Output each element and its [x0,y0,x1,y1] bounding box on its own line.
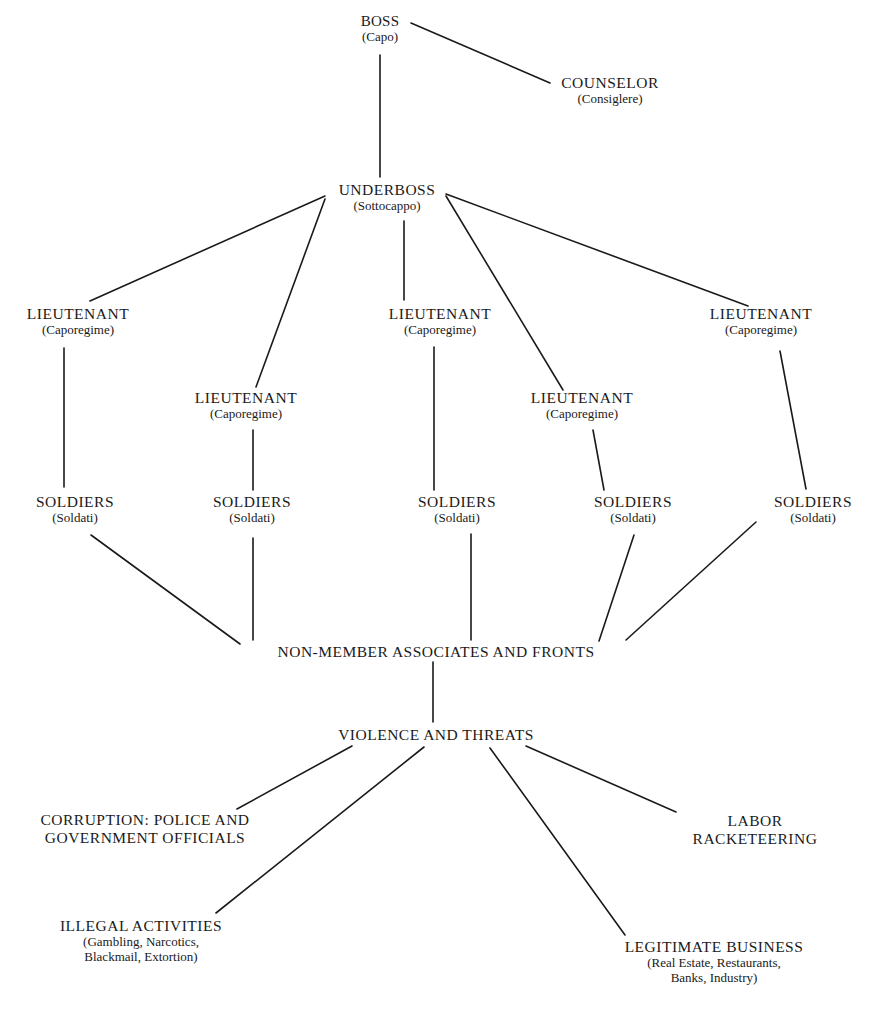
lieutenant-title: LIEUTENANT [710,305,812,323]
edge-violence-corruption [237,746,352,809]
underboss-title: UNDERBOSS [339,181,436,199]
soldiers-title: SOLDIERS [418,493,496,511]
node-violence-and-threats: VIOLENCE AND THREATS [338,726,534,744]
edge-violence-labor [526,746,676,812]
lieutenant-subtitle: (Caporegime) [27,323,129,338]
edge-underboss-lieutenant-2 [256,199,325,387]
node-legitimate-business: LEGITIMATE BUSINESS (Real Estate, Restau… [625,938,804,986]
corruption-line-1: CORRUPTION: POLICE AND [40,811,249,829]
edge-underboss-lieutenant-1 [90,196,325,301]
edge-underboss-lieutenant-4 [446,196,563,390]
node-underboss: UNDERBOSS (Sottocappo) [339,181,436,214]
node-lieutenant-2: LIEUTENANT (Caporegime) [195,389,297,422]
node-counselor: COUNSELOR (Consiglere) [561,74,659,107]
edge-soldiers-4-associates [599,535,634,641]
lieutenant-title: LIEUTENANT [531,389,633,407]
soldiers-title: SOLDIERS [594,493,672,511]
node-illegal-activities: ILLEGAL ACTIVITIES (Gambling, Narcotics,… [60,917,222,965]
edge-boss-counselor [411,23,550,83]
soldiers-subtitle: (Soldati) [36,511,114,526]
legitimate-line-2: Banks, Industry) [625,971,804,986]
mafia-hierarchy-diagram: BOSS (Capo) COUNSELOR (Consiglere) UNDER… [0,0,872,1010]
soldiers-subtitle: (Soldati) [594,511,672,526]
labor-line-2: RACKETEERING [693,830,818,848]
soldiers-subtitle: (Soldati) [774,511,852,526]
node-soldiers-2: SOLDIERS (Soldati) [213,493,291,526]
associates-title: NON-MEMBER ASSOCIATES AND FRONTS [277,643,594,661]
boss-subtitle: (Capo) [361,30,400,45]
edge-lieutenant-4-soldiers-4 [593,430,604,490]
labor-line-1: LABOR [693,812,818,830]
node-non-member-associates: NON-MEMBER ASSOCIATES AND FRONTS [277,643,594,661]
node-soldiers-3: SOLDIERS (Soldati) [418,493,496,526]
edge-lieutenant-5-soldiers-5 [780,351,806,489]
illegal-line-1: (Gambling, Narcotics, [60,935,222,950]
lieutenant-title: LIEUTENANT [389,305,491,323]
node-labor-racketeering: LABOR RACKETEERING [693,812,818,848]
legitimate-title: LEGITIMATE BUSINESS [625,938,804,956]
node-lieutenant-3: LIEUTENANT (Caporegime) [389,305,491,338]
lieutenant-subtitle: (Caporegime) [531,407,633,422]
edge-violence-legitimate [490,748,625,935]
node-boss: BOSS (Capo) [361,13,400,45]
node-lieutenant-5: LIEUTENANT (Caporegime) [710,305,812,338]
soldiers-subtitle: (Soldati) [418,511,496,526]
node-soldiers-4: SOLDIERS (Soldati) [594,493,672,526]
node-lieutenant-1: LIEUTENANT (Caporegime) [27,305,129,338]
lieutenant-subtitle: (Caporegime) [389,323,491,338]
counselor-subtitle: (Consiglere) [561,92,659,107]
violence-title: VIOLENCE AND THREATS [338,726,534,744]
soldiers-title: SOLDIERS [36,493,114,511]
soldiers-subtitle: (Soldati) [213,511,291,526]
lieutenant-subtitle: (Caporegime) [195,407,297,422]
lieutenant-subtitle: (Caporegime) [710,323,812,338]
edge-soldiers-1-associates [91,535,240,644]
edge-soldiers-5-associates [626,522,756,640]
illegal-title: ILLEGAL ACTIVITIES [60,917,222,935]
node-soldiers-1: SOLDIERS (Soldati) [36,493,114,526]
corruption-line-2: GOVERNMENT OFFICIALS [40,829,249,847]
node-soldiers-5: SOLDIERS (Soldati) [774,493,852,526]
node-lieutenant-4: LIEUTENANT (Caporegime) [531,389,633,422]
boss-title: BOSS [361,13,400,30]
node-corruption: CORRUPTION: POLICE AND GOVERNMENT OFFICI… [40,811,249,847]
soldiers-title: SOLDIERS [774,493,852,511]
counselor-title: COUNSELOR [561,74,659,92]
edge-underboss-lieutenant-5 [446,194,748,306]
soldiers-title: SOLDIERS [213,493,291,511]
legitimate-line-1: (Real Estate, Restaurants, [625,956,804,971]
lieutenant-title: LIEUTENANT [195,389,297,407]
lieutenant-title: LIEUTENANT [27,305,129,323]
illegal-line-2: Blackmail, Extortion) [60,950,222,965]
underboss-subtitle: (Sottocappo) [339,199,436,214]
